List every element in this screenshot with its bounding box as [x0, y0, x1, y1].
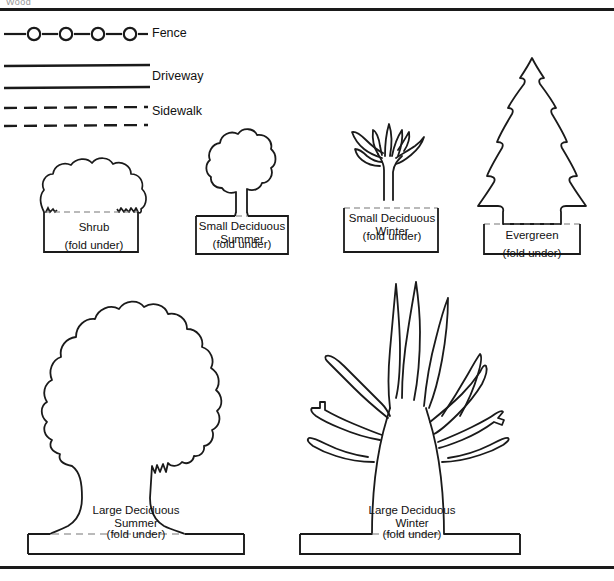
tile-large-deciduous-summer: Large Deciduous Summer (fold under) — [22, 276, 250, 558]
legend-item-driveway: Driveway — [0, 60, 300, 94]
evergreen-shape — [466, 50, 598, 258]
small-deciduous-winter-shape — [332, 100, 452, 258]
bottom-rule — [0, 566, 614, 569]
large-deciduous-winter-shape — [292, 276, 532, 558]
legend-label-driveway: Driveway — [152, 69, 203, 83]
shrub-shape — [30, 146, 158, 258]
tile-large-deciduous-winter: Large Deciduous Winter (fold under) — [292, 276, 532, 558]
legend-label-fence: Fence — [152, 26, 187, 40]
tile-small-deciduous-summer: Small Deciduous Summer (fold under) — [184, 112, 300, 258]
tile-small-deciduous-winter: Small Deciduous Winter (fold under) — [332, 100, 452, 258]
worksheet-page: Wood Fence — [0, 0, 614, 581]
tile-evergreen: Evergreen (fold under) — [466, 50, 598, 258]
fence-symbol — [0, 22, 150, 46]
sidewalk-symbol — [0, 102, 155, 134]
legend-item-fence: Fence — [0, 22, 300, 56]
clipped-header-text: Wood — [6, 0, 31, 6]
large-deciduous-summer-shape — [22, 276, 250, 558]
tile-shrub: Shrub (fold under) — [30, 146, 158, 258]
small-deciduous-summer-shape — [184, 112, 300, 258]
driveway-symbol — [0, 60, 155, 96]
top-rule — [0, 8, 614, 11]
